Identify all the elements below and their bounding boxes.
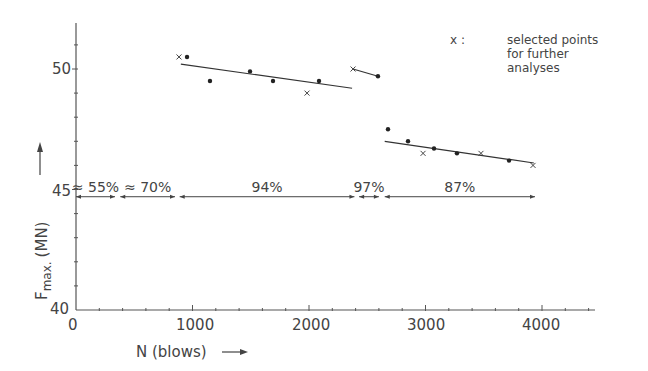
legend-marker: x : xyxy=(450,33,465,47)
data-point-dot xyxy=(386,127,390,131)
data-point-dot xyxy=(376,74,380,78)
trend-line xyxy=(385,141,534,163)
annotation-span: 87% xyxy=(385,179,535,199)
svg-text:Fmax.(MN): Fmax.(MN) xyxy=(33,222,54,300)
selected-point-x-marker xyxy=(176,54,181,59)
y-tick-label-50: 50 xyxy=(52,60,71,78)
y-title-main: F xyxy=(33,291,51,300)
data-point-dot xyxy=(208,79,212,83)
y-tick-label-45: 45 xyxy=(52,182,71,200)
data-point-dot xyxy=(271,79,275,83)
x-tick-label-0: 0 xyxy=(68,316,78,334)
annotation-span: ≈ 55% xyxy=(72,179,119,199)
y-title-sub: max. xyxy=(40,261,54,291)
legend-line-2: for further xyxy=(507,47,569,61)
y-ticks xyxy=(72,45,78,286)
data-point-dot xyxy=(185,55,189,59)
trend-lines xyxy=(181,64,534,163)
x-tick-label-1000: 1000 xyxy=(176,316,214,334)
legend-line-3: analyses xyxy=(507,61,560,75)
y-title-unit: (MN) xyxy=(33,222,51,258)
fmax-vs-blows-chart: 0 1000 2000 3000 4000 40 45 50 N (blows)… xyxy=(0,0,648,371)
x-tick-label-2000: 2000 xyxy=(292,316,330,334)
trend-line xyxy=(181,64,352,88)
selected-point-x-marker xyxy=(305,91,310,96)
y-axis-title: Fmax.(MN) xyxy=(33,222,54,300)
percentage-annotations: ≈ 55%≈ 70%94%97%87% xyxy=(72,179,535,199)
data-point-dot xyxy=(406,139,410,143)
selected-point-x-marker xyxy=(531,163,536,168)
data-point-dot xyxy=(455,151,459,155)
annotation-label: 87% xyxy=(444,179,475,195)
x-axis-title: N (blows) xyxy=(136,343,207,361)
data-point-dot xyxy=(317,79,321,83)
x-tick-label-4000: 4000 xyxy=(522,316,560,334)
data-point-dot xyxy=(432,146,436,150)
x-axis-arrow-icon xyxy=(222,349,248,355)
trend-line xyxy=(353,69,378,76)
annotation-span: ≈ 70% xyxy=(120,179,175,199)
x-tick-label-3000: 3000 xyxy=(407,316,445,334)
annotation-label: ≈ 70% xyxy=(124,179,171,195)
annotation-label: 97% xyxy=(353,179,384,195)
legend-line-1: selected points xyxy=(507,33,598,47)
annotation-label: 94% xyxy=(251,179,282,195)
data-point-dot xyxy=(507,158,511,162)
annotation-label: ≈ 55% xyxy=(72,179,119,195)
annotation-span: 97% xyxy=(353,179,384,199)
legend: x : selected points for further analyses xyxy=(450,33,598,75)
selected-point-x-marker xyxy=(421,151,426,156)
y-tick-label-40: 40 xyxy=(50,300,69,318)
annotation-span: 94% xyxy=(180,179,355,199)
y-axis-arrow-icon xyxy=(37,142,43,175)
data-point-dot xyxy=(248,69,252,73)
